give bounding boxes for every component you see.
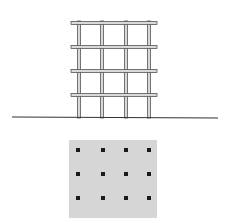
ground-line [12,117,218,118]
frame-diagram [0,0,230,218]
column-marker [124,172,128,176]
column-marker [147,172,151,176]
plan-slab [69,140,157,218]
column-marker [101,172,105,176]
column-marker [101,148,105,152]
frame-plan-view [69,140,157,218]
column-marker [147,148,151,152]
column-marker [147,196,151,200]
column-marker [101,196,105,200]
column-marker [124,148,128,152]
frame-elevation-view [71,21,157,118]
frame-beam [71,22,157,25]
column-marker [76,196,80,200]
frame-beam [71,46,157,49]
column-marker [76,172,80,176]
column-marker [124,196,128,200]
frame-beam [71,70,157,73]
column-marker [76,148,80,152]
frame-beam [71,94,157,97]
